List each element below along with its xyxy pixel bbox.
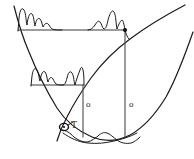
turning-point-center-dot bbox=[63, 126, 65, 128]
upper-level-wavefunction-left bbox=[18, 9, 62, 31]
upper-level-wavefunction-right bbox=[88, 11, 129, 39]
lower-level-wavefunction-right bbox=[63, 67, 84, 85]
upper-turning-point-dot bbox=[123, 28, 127, 32]
right-column-label: o bbox=[129, 100, 134, 109]
outer-potential-parabola-curve bbox=[14, 6, 193, 140]
figure-drawing bbox=[0, 0, 194, 159]
turning-point-label: T bbox=[71, 120, 77, 130]
lower-level-wavefunction-left bbox=[31, 69, 63, 86]
left-column-label: o bbox=[86, 100, 91, 109]
figure-canvas: o o T bbox=[0, 0, 194, 159]
